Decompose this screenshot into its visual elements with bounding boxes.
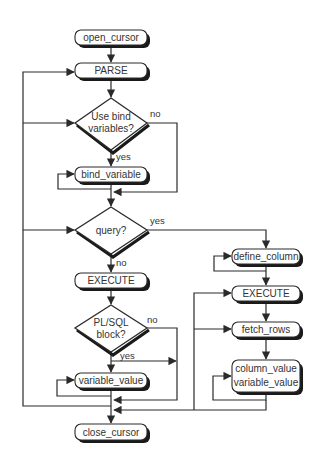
edge-label-yes: yes <box>116 151 131 162</box>
edge-right-to-close <box>114 400 266 410</box>
decision-label: query? <box>96 225 127 236</box>
node-parse: PARSE <box>75 63 150 81</box>
node-column-value: column_value variable_value <box>232 360 303 395</box>
decision-label-line1: PL/SQL <box>93 317 128 328</box>
node-label: open_cursor <box>83 32 139 43</box>
node-define-column: define_column <box>232 249 303 267</box>
flowchart-canvas: open_cursor PARSE Use bind variables? no… <box>0 0 325 467</box>
node-label: EXECUTE <box>242 288 290 299</box>
node-label-line1: column_value <box>235 363 297 374</box>
node-close-cursor: close_cursor <box>75 424 150 443</box>
edge-label-no: no <box>147 314 158 325</box>
node-label: define_column <box>233 251 298 262</box>
node-variable-value: variable_value <box>75 373 150 391</box>
decision-query: query? <box>75 207 149 257</box>
decision-label-line2: block? <box>97 329 126 340</box>
decision-label-line2: variables? <box>88 123 134 134</box>
decision-use-bind-variables: Use bind variables? <box>75 98 149 153</box>
node-fetch-rows: fetch_rows <box>232 322 303 340</box>
decision-label-line1: Use bind <box>91 111 130 122</box>
node-label: fetch_rows <box>242 324 290 335</box>
edge-label-no: no <box>116 257 127 268</box>
decision-plsql-block: PL/SQL block? <box>75 305 149 355</box>
node-open-cursor: open_cursor <box>75 30 150 48</box>
edge-label-yes: yes <box>120 350 135 361</box>
edge-label-yes: yes <box>150 215 165 226</box>
edge-query-yes <box>147 230 266 248</box>
node-label: EXECUTE <box>87 275 135 286</box>
node-label: bind_variable <box>81 169 141 180</box>
edge-label-no: no <box>150 108 161 119</box>
node-bind-variable: bind_variable <box>75 167 150 185</box>
node-label: PARSE <box>94 65 127 76</box>
node-execute-right: EXECUTE <box>232 286 303 304</box>
node-label: variable_value <box>79 375 144 386</box>
node-execute-left: EXECUTE <box>75 273 150 291</box>
node-label-line2: variable_value <box>234 377 299 388</box>
node-label: close_cursor <box>83 427 140 438</box>
